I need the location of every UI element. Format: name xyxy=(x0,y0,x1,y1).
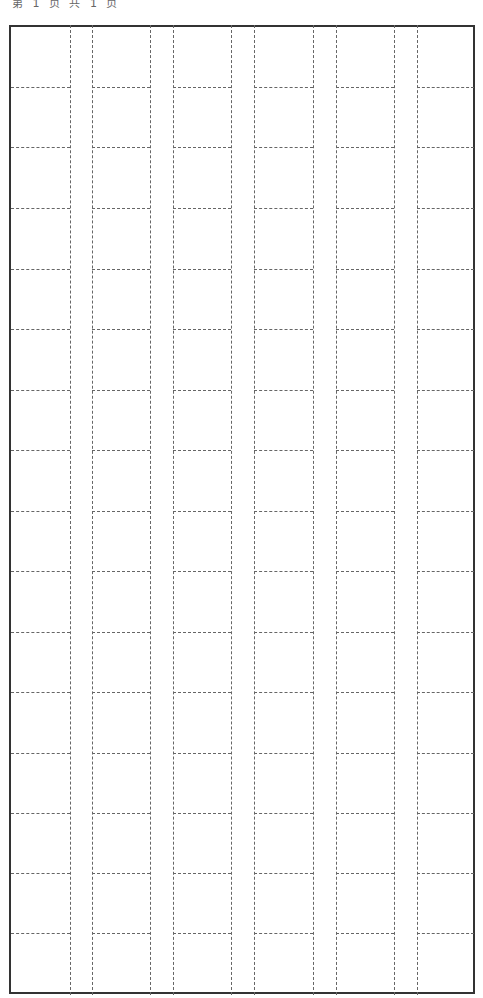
grid-horizontal-line xyxy=(417,933,474,934)
grid-horizontal-line xyxy=(336,390,394,391)
grid-vertical-line xyxy=(150,25,151,995)
grid-horizontal-line xyxy=(417,87,474,88)
grid-horizontal-line xyxy=(336,511,394,512)
grid-horizontal-line xyxy=(417,753,474,754)
grid-horizontal-line xyxy=(254,87,313,88)
grid-horizontal-line xyxy=(92,813,150,814)
grid-horizontal-line xyxy=(173,511,231,512)
grid-horizontal-line xyxy=(11,692,70,693)
grid-horizontal-line xyxy=(173,753,231,754)
grid-horizontal-line xyxy=(173,813,231,814)
grid-horizontal-line xyxy=(417,390,474,391)
grid-vertical-line xyxy=(92,25,93,995)
grid-horizontal-line xyxy=(92,450,150,451)
grid-horizontal-line xyxy=(11,269,70,270)
grid-horizontal-line xyxy=(11,87,70,88)
grid-vertical-line xyxy=(336,25,337,995)
grid-horizontal-line xyxy=(11,873,70,874)
grid-horizontal-line xyxy=(336,329,394,330)
grid-horizontal-line xyxy=(92,933,150,934)
grid-vertical-line xyxy=(70,25,71,995)
grid-horizontal-line xyxy=(173,329,231,330)
grid-horizontal-line xyxy=(173,632,231,633)
grid-horizontal-line xyxy=(336,753,394,754)
grid-horizontal-line xyxy=(92,269,150,270)
grid-horizontal-line xyxy=(92,87,150,88)
grid-horizontal-line xyxy=(173,933,231,934)
grid-horizontal-line xyxy=(173,873,231,874)
grid-horizontal-line xyxy=(254,933,313,934)
grid-horizontal-line xyxy=(11,813,70,814)
grid-horizontal-line xyxy=(11,933,70,934)
grid-horizontal-line xyxy=(254,873,313,874)
grid-horizontal-line xyxy=(92,208,150,209)
grid-horizontal-line xyxy=(254,571,313,572)
grid-horizontal-line xyxy=(11,632,70,633)
grid-horizontal-line xyxy=(11,511,70,512)
grid-horizontal-line xyxy=(336,813,394,814)
grid-horizontal-line xyxy=(336,571,394,572)
grid-horizontal-line xyxy=(254,329,313,330)
grid-horizontal-line xyxy=(417,692,474,693)
grid-vertical-line xyxy=(254,25,255,995)
grid-horizontal-line xyxy=(336,632,394,633)
grid-horizontal-line xyxy=(254,692,313,693)
grid-horizontal-line xyxy=(173,450,231,451)
grid-horizontal-line xyxy=(11,390,70,391)
grid-horizontal-line xyxy=(417,208,474,209)
grid-horizontal-line xyxy=(254,813,313,814)
grid-horizontal-line xyxy=(254,208,313,209)
grid-horizontal-line xyxy=(417,511,474,512)
grid-horizontal-line xyxy=(417,269,474,270)
grid-horizontal-line xyxy=(173,147,231,148)
grid-horizontal-line xyxy=(173,208,231,209)
grid-horizontal-line xyxy=(336,87,394,88)
grid-vertical-line xyxy=(313,25,314,995)
grid-horizontal-line xyxy=(417,450,474,451)
grid-horizontal-line xyxy=(92,753,150,754)
grid-horizontal-line xyxy=(254,269,313,270)
grid-vertical-line xyxy=(417,25,418,995)
grid-horizontal-line xyxy=(92,571,150,572)
grid-horizontal-line xyxy=(11,571,70,572)
grid-horizontal-line xyxy=(92,390,150,391)
grid-horizontal-line xyxy=(336,450,394,451)
grid-horizontal-line xyxy=(417,632,474,633)
grid-horizontal-line xyxy=(336,933,394,934)
grid-horizontal-line xyxy=(254,147,313,148)
grid-horizontal-line xyxy=(254,632,313,633)
grid-horizontal-line xyxy=(173,692,231,693)
grid-horizontal-line xyxy=(417,329,474,330)
grid-horizontal-line xyxy=(11,208,70,209)
grid-horizontal-line xyxy=(417,813,474,814)
grid-horizontal-line xyxy=(92,511,150,512)
grid-horizontal-line xyxy=(11,147,70,148)
grid-horizontal-line xyxy=(336,873,394,874)
grid-horizontal-line xyxy=(417,147,474,148)
grid-horizontal-line xyxy=(92,329,150,330)
grid-horizontal-line xyxy=(336,692,394,693)
grid-vertical-line xyxy=(394,25,395,995)
grid-horizontal-line xyxy=(254,511,313,512)
grid-horizontal-line xyxy=(173,87,231,88)
grid-horizontal-line xyxy=(254,753,313,754)
grid-horizontal-line xyxy=(254,450,313,451)
grid-horizontal-line xyxy=(92,873,150,874)
writing-grid-border xyxy=(9,25,475,994)
grid-vertical-line xyxy=(173,25,174,995)
grid-horizontal-line xyxy=(417,571,474,572)
grid-horizontal-line xyxy=(336,269,394,270)
grid-horizontal-line xyxy=(11,450,70,451)
grid-horizontal-line xyxy=(417,873,474,874)
grid-horizontal-line xyxy=(92,692,150,693)
grid-vertical-line xyxy=(231,25,232,995)
grid-horizontal-line xyxy=(336,147,394,148)
grid-horizontal-line xyxy=(92,632,150,633)
grid-horizontal-line xyxy=(11,329,70,330)
grid-horizontal-line xyxy=(173,571,231,572)
page-header: 第 1 页 共 1 页 xyxy=(12,0,120,10)
grid-horizontal-line xyxy=(336,208,394,209)
grid-horizontal-line xyxy=(92,147,150,148)
grid-horizontal-line xyxy=(11,753,70,754)
grid-horizontal-line xyxy=(173,390,231,391)
